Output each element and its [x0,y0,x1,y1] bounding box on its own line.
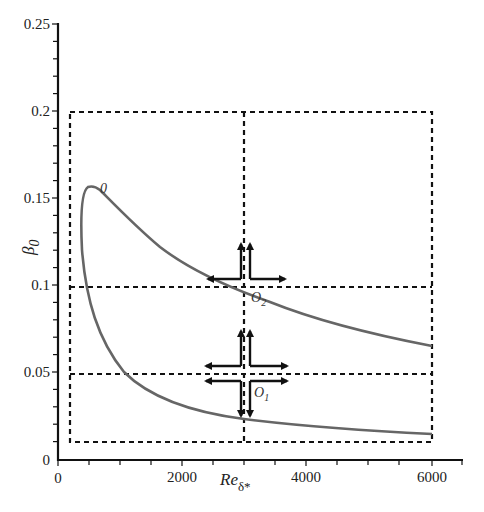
x-axis-title: Reδ* [219,470,251,494]
point-label-o1: O1 [254,385,269,403]
chart: 0.25 0.2 0.15 0.1 0.05 0 0 2000 4000 600… [0,0,484,512]
y-tick-label: 0.1 [31,277,50,293]
y-tick-label: 0.15 [24,190,50,206]
y-tick-label: 0.25 [24,16,50,32]
y-tick-label: 0.05 [24,364,50,380]
point-label-o2: O2 [251,290,266,308]
x-tick-label: 2000 [167,469,197,485]
y-axis-title: β0 [19,240,42,256]
x-tick-label: 4000 [291,469,321,485]
curve-label: 0 [100,181,107,196]
y-tick-label: 0.2 [31,103,50,119]
x-tick-label: 0 [54,470,62,486]
y-tick-label: 0 [43,452,51,468]
x-tick-label: 6000 [417,469,447,485]
svg-text:β0: β0 [19,240,42,256]
x-tick-labels: 0 2000 4000 6000 [54,469,447,486]
svg-text:Reδ*: Reδ* [219,470,251,494]
o2-arrows [208,244,285,279]
